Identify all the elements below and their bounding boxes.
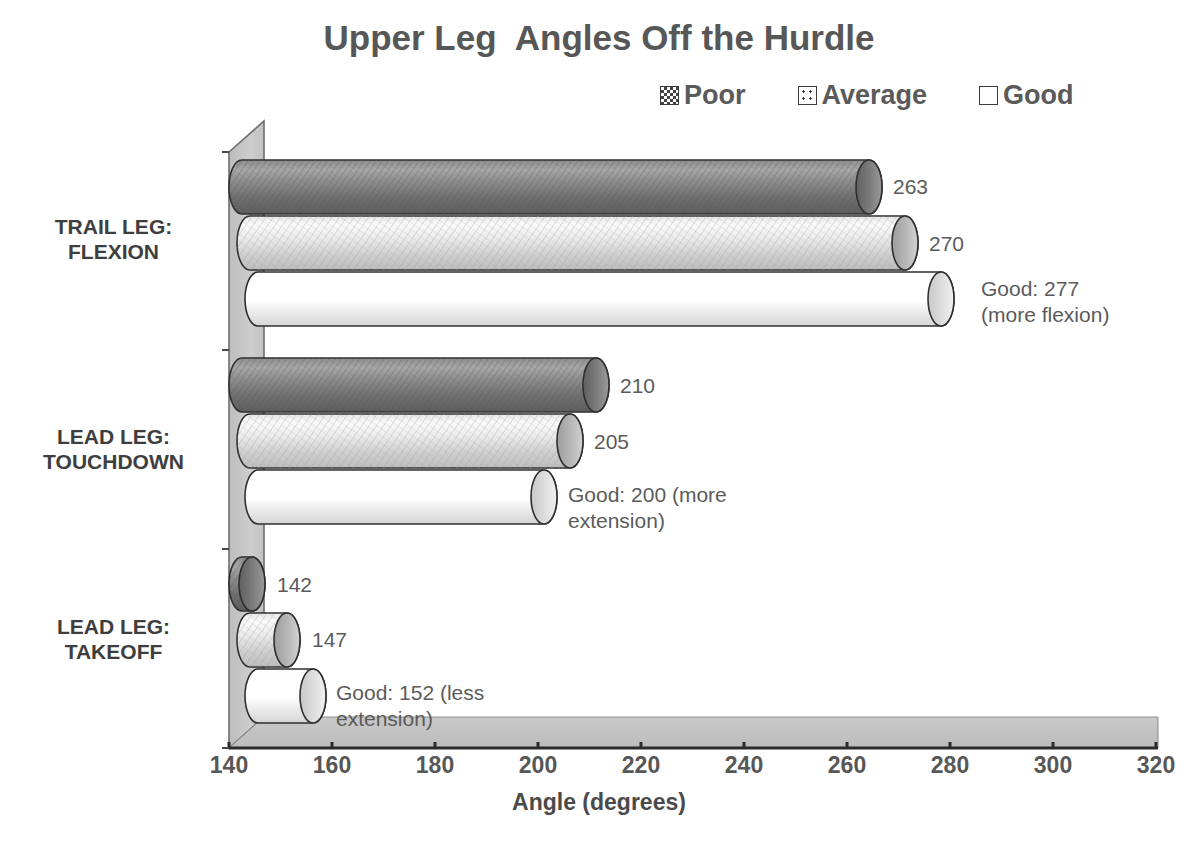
bar-trail-good[interactable]: [245, 272, 954, 326]
value-label-takeoff-good: Good: 152 (less extension): [336, 680, 484, 733]
x-tick-240: 240: [709, 752, 779, 779]
bar-touchdown-poor[interactable]: [229, 358, 609, 412]
bar-group-lead-leg-touchdown: [229, 358, 609, 524]
value-label-trail-poor: 263: [893, 174, 928, 200]
x-tick-200: 200: [503, 752, 573, 779]
category-label-line1: LEAD LEG:: [6, 425, 221, 450]
bar-trail-poor[interactable]: [229, 160, 882, 214]
x-tick-160: 160: [297, 752, 367, 779]
category-label-lead-leg-takeoff: LEAD LEG: TAKEOFF: [6, 615, 221, 665]
bar-group-trail-leg-flexion: [229, 160, 954, 326]
bar-trail-average[interactable]: [237, 216, 918, 270]
value-label-takeoff-poor: 142: [277, 572, 312, 598]
category-label-line2: TAKEOFF: [6, 640, 221, 665]
x-tick-140: 140: [194, 752, 264, 779]
value-label-touchdown-average: 205: [594, 429, 629, 455]
value-label-touchdown-poor: 210: [620, 373, 655, 399]
category-label-line1: TRAIL LEG:: [6, 215, 221, 240]
chart-page: Upper Leg Angles Off the Hurdle Poor Ave…: [0, 0, 1198, 863]
x-tick-220: 220: [606, 752, 676, 779]
category-label-line2: TOUCHDOWN: [6, 450, 221, 475]
x-tick-320: 320: [1121, 752, 1191, 779]
bar-takeoff-average[interactable]: [237, 613, 300, 667]
category-label-line2: FLEXION: [6, 240, 221, 265]
category-label-line1: LEAD LEG:: [6, 615, 221, 640]
bar-touchdown-good[interactable]: [245, 470, 557, 524]
category-label-lead-leg-touchdown: LEAD LEG: TOUCHDOWN: [6, 425, 221, 475]
bar-takeoff-poor[interactable]: [229, 557, 265, 611]
category-label-trail-leg-flexion: TRAIL LEG: FLEXION: [6, 215, 221, 265]
value-label-trail-good: Good: 277 (more flexion): [981, 276, 1109, 329]
value-label-trail-average: 270: [929, 231, 964, 257]
y-axis-ticks: [222, 152, 229, 748]
bar-takeoff-good[interactable]: [245, 669, 326, 723]
bar-touchdown-average[interactable]: [237, 414, 583, 468]
x-tick-300: 300: [1018, 752, 1088, 779]
x-tick-260: 260: [812, 752, 882, 779]
x-axis-title: Angle (degrees): [0, 789, 1198, 816]
value-label-takeoff-average: 147: [312, 627, 347, 653]
value-label-touchdown-good: Good: 200 (more extension): [568, 482, 727, 535]
x-tick-180: 180: [400, 752, 470, 779]
x-tick-280: 280: [915, 752, 985, 779]
